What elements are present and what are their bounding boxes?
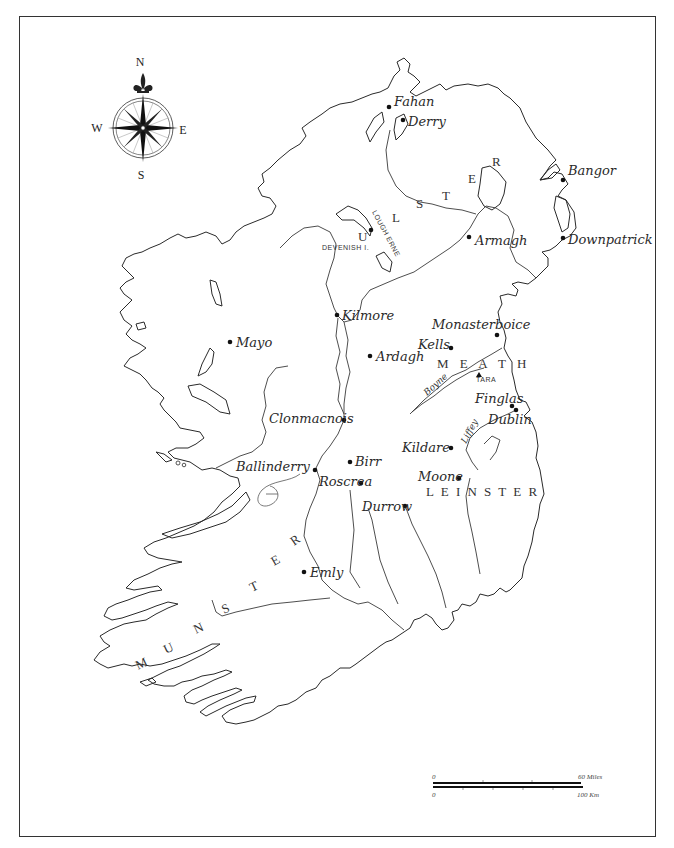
site-label-ardagh: Ardagh	[375, 349, 424, 364]
site-label-derry: Derry	[407, 114, 447, 129]
site-label-dublin: Dublin	[487, 412, 532, 427]
site-label-downpatrick: Downpatrick	[567, 232, 653, 247]
site-dot-birr[interactable]	[348, 460, 353, 465]
province-letter: E	[468, 171, 476, 186]
site-labels: Fahan Derry Bangor Armagh Downpatrick Ki…	[235, 94, 653, 580]
lough-neagh	[478, 166, 506, 210]
site-label-monasterboice: Monasterboice	[431, 317, 531, 332]
province-letter: T	[442, 188, 450, 203]
site-dot-ballinderry[interactable]	[313, 468, 318, 473]
lower-lough-erne	[376, 252, 392, 272]
fleur-de-lis-icon	[133, 73, 152, 93]
site-label-fahan: Fahan	[393, 94, 434, 109]
site-label-mayo: Mayo	[235, 335, 272, 350]
compass-rose-icon: N W E S	[91, 55, 186, 182]
province-letter: E	[268, 552, 282, 569]
strangford-lough	[554, 196, 570, 232]
ulster-inner-border	[386, 130, 476, 214]
compass-west-label: W	[91, 121, 103, 135]
province-letter: U	[161, 639, 176, 657]
site-label-clonmacnois: Clonmacnois	[269, 411, 354, 426]
shannon-estuary	[162, 492, 250, 538]
river-nore	[368, 508, 398, 604]
province-leinster: L E I N S T E R	[426, 484, 539, 499]
leinster-munster-border	[304, 420, 404, 630]
site-label-ballinderry: Ballinderry	[235, 459, 311, 474]
lough-foyle	[394, 114, 408, 140]
lough-swilly	[366, 112, 384, 142]
devenish-label: DEVENISH I.	[322, 244, 369, 251]
site-dot-fahan[interactable]	[387, 105, 392, 110]
boyne-label: Boyne	[421, 371, 449, 398]
province-letter: S	[416, 196, 423, 211]
ballinderry-flourish	[258, 474, 300, 506]
river-liffey-upper	[484, 436, 500, 460]
river-shannon	[336, 318, 344, 414]
river-suir	[350, 490, 360, 588]
ireland-map: N W E S	[0, 0, 674, 848]
site-label-emly: Emly	[309, 565, 344, 580]
lough-corrib	[188, 384, 230, 414]
site-label-birr: Birr	[354, 454, 382, 469]
site-label-armagh: Armagh	[474, 233, 527, 248]
scale-miles-end: 60 Miles	[578, 773, 603, 781]
province-letter: M	[133, 654, 150, 673]
site-dot-devenish[interactable]	[369, 228, 374, 233]
site-dot-derry[interactable]	[401, 118, 406, 123]
province-letter: U	[358, 229, 368, 244]
scale-miles-start: 0	[432, 773, 436, 781]
province-letter: T	[247, 578, 261, 595]
site-dot-armagh[interactable]	[467, 235, 472, 240]
site-label-roscrea: Roscrea	[318, 474, 372, 489]
site-label-kildare: Kildare	[401, 440, 450, 455]
site-dot-ardagh[interactable]	[368, 354, 373, 359]
compass-north-label: N	[136, 55, 145, 69]
compass-south-label: S	[138, 168, 145, 182]
site-label-moone: Moone	[417, 469, 463, 484]
province-letter: L	[392, 210, 400, 225]
province-letter: R	[287, 531, 303, 548]
lough-conn	[210, 280, 222, 306]
province-meath: M E A T H	[437, 356, 530, 371]
ulster-border	[280, 206, 536, 322]
compass-east-label: E	[179, 123, 186, 137]
river-barrow	[406, 508, 446, 608]
tara-label: TARA	[476, 376, 496, 383]
lough-mask	[198, 348, 214, 376]
tara-marker-icon	[476, 372, 482, 377]
scale-km-start: 0	[432, 791, 436, 799]
site-dot-bangor[interactable]	[561, 178, 566, 183]
province-munster: M U N S T E R	[133, 531, 303, 673]
site-dot-mayo[interactable]	[228, 340, 233, 345]
site-label-bangor: Bangor	[567, 163, 617, 178]
site-dot-kilmore[interactable]	[335, 313, 340, 318]
achill-island	[136, 322, 146, 330]
site-label-finglas: Finglas	[474, 391, 524, 406]
site-label-kilmore: Kilmore	[341, 308, 394, 323]
site-dot-emly[interactable]	[302, 570, 307, 575]
province-letter: S	[219, 600, 232, 617]
kerry-island	[140, 678, 156, 686]
scale-km-end: 100 Km	[577, 791, 599, 799]
province-letter: R	[492, 154, 501, 169]
site-dot-monasterboice[interactable]	[495, 333, 500, 338]
province-letter: N	[191, 619, 206, 637]
site-dot-downpatrick[interactable]	[561, 236, 566, 241]
scale-bar: 0 60 Miles 0 100 Km	[432, 773, 603, 799]
site-label-durrow: Durrow	[361, 499, 412, 514]
